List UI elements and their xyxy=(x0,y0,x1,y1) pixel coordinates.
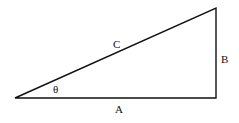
triangle-shape xyxy=(15,8,216,98)
label-angle-theta: θ xyxy=(53,83,58,95)
label-side-a: A xyxy=(115,103,123,115)
right-triangle-diagram: C B A θ xyxy=(0,0,239,123)
label-side-b: B xyxy=(221,53,228,65)
label-hypotenuse-c: C xyxy=(113,38,120,50)
